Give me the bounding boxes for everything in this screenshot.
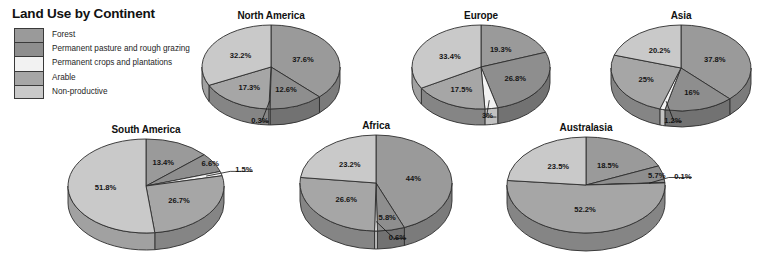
legend-item: Permanent crops and plantations [14, 56, 196, 70]
pie-svg: 37.6%12.6%0.3%17.3%32.2% [196, 22, 346, 120]
pie-slice-label: 44% [406, 174, 421, 183]
legend-item: Non-productive [14, 85, 196, 99]
pie-chart-asia: Asia 37.8%16%1.2%25%20.2% [606, 10, 756, 122]
pie-title-europe: Europe [406, 10, 556, 21]
pie-title-asia: Asia [606, 10, 756, 21]
pie-title-australasia: Australasia [500, 122, 672, 133]
legend: Land Use by Continent ForestPermanent pa… [6, 6, 196, 99]
pie-slice-label: 1.5% [235, 165, 253, 174]
pie-slice-label: 0.6% [389, 233, 407, 242]
pie-slice-label: 5.8% [379, 213, 397, 222]
pie-slice-label: 17.5% [451, 85, 473, 94]
pie-slice-label: 0.1% [674, 172, 692, 181]
pie-slice-label: 52.2% [574, 205, 596, 214]
pie-slice [507, 137, 586, 185]
pie-slice-label: 51.8% [95, 183, 117, 192]
pie-svg: 44%5.8%0.6%26.6%23.2% [292, 132, 460, 244]
pie-slice-label: 3% [482, 111, 493, 120]
pie-svg: 19.3%26.8%3%17.5%33.4% [406, 22, 556, 120]
pie-chart-europe: Europe 19.3%26.8%3%17.5%33.4% [406, 10, 556, 120]
pie-chart-africa: Africa 44%5.8%0.6%26.6%23.2% [292, 120, 460, 244]
pie-slice-label: 6.6% [202, 159, 220, 168]
pie-slice-label: 20.2% [649, 46, 671, 55]
pie-slice-label: 13.4% [152, 158, 174, 167]
legend-swatch [14, 56, 44, 70]
legend-item: Permanent pasture and rough grazing [14, 42, 196, 56]
legend-label: Permanent crops and plantations [52, 59, 172, 67]
page-title: Land Use by Continent [12, 6, 196, 21]
land-use-chart-figure: Land Use by Continent ForestPermanent pa… [0, 0, 771, 264]
pie-slice-label: 25% [639, 75, 654, 84]
legend-swatch [14, 85, 44, 99]
pie-slice-label: 18.5% [597, 161, 619, 170]
pie-slice-label: 5.7% [648, 171, 666, 180]
pie-title-south-america: South America [62, 124, 230, 135]
legend-label: Permanent pasture and rough grazing [52, 45, 190, 53]
legend-label: Non-productive [52, 88, 108, 96]
pie-slice-label: 26.7% [168, 196, 190, 205]
pie-slice-label: 19.3% [490, 45, 512, 54]
pie-slice-label: 32.2% [230, 51, 252, 60]
legend-label: Arable [52, 74, 76, 82]
pie-slice-label: 37.8% [704, 55, 726, 64]
pie-chart-north-america: North America 37.6%12.6%0.3%17.3%32.2% [196, 10, 346, 120]
legend-items: ForestPermanent pasture and rough grazin… [14, 28, 196, 99]
pie-slice-label: 26.8% [504, 74, 526, 83]
pie-svg: 13.4%6.6%1.5%26.7%51.8% [62, 136, 230, 242]
pie-svg: 37.8%16%1.2%25%20.2% [606, 22, 756, 122]
legend-label: Forest [52, 31, 75, 39]
legend-swatch [14, 71, 44, 85]
pie-chart-australasia: Australasia 18.5%5.7%0.1%52.2%23.5% [500, 122, 672, 244]
legend-swatch [14, 42, 44, 56]
pie-chart-south-america: South America 13.4%6.6%1.5%26.7%51.8% [62, 124, 230, 242]
pie-slice-label: 33.4% [439, 52, 461, 61]
legend-swatch [14, 28, 44, 42]
legend-item: Arable [14, 71, 196, 85]
pie-slice-label: 37.6% [292, 55, 314, 64]
pie-slice-label: 12.6% [275, 85, 297, 94]
pie-slice-label: 17.3% [238, 83, 260, 92]
legend-item: Forest [14, 28, 196, 42]
pie-slice-label: 23.2% [339, 160, 361, 169]
pie-slice-label: 16% [684, 88, 699, 97]
pie-title-north-america: North America [196, 10, 346, 21]
pie-slice-label: 23.5% [548, 162, 570, 171]
pie-slice-label: 26.6% [335, 195, 357, 204]
pie-svg: 18.5%5.7%0.1%52.2%23.5% [500, 134, 672, 244]
pie-slice-label: 0.3% [251, 116, 269, 125]
pie-title-africa: Africa [292, 120, 460, 131]
